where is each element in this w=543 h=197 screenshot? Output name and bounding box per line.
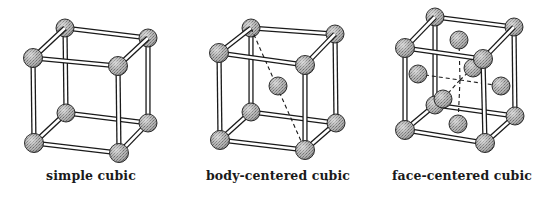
corner-atom-shading [110,144,129,163]
corner-atom-shading [57,104,75,122]
corner-atom-shading [25,134,44,153]
face-center-atom-shading [492,77,510,95]
rod [118,66,119,153]
rod [65,28,66,113]
corner-atom-shading [396,39,415,58]
rod [219,53,305,65]
corner-atom-shading [327,114,345,132]
body-centered-cubic-label: body-centered cubic [206,168,350,183]
rod [435,17,514,27]
corner-atom-shading [24,49,43,68]
rod [65,28,148,38]
rod [34,143,119,153]
corner-atom-shading [139,114,157,132]
corner-atom-shading [242,103,260,121]
rod [219,53,220,140]
corner-atom-shading [476,134,495,153]
rod [335,34,336,123]
simple-cubic-label: simple cubic [46,168,136,183]
rod [220,140,305,150]
rod [405,130,485,143]
rod [514,27,515,116]
corner-atom-shading [211,131,230,150]
face-centered-cubic-label: face-centered cubic [392,168,532,183]
corner-atom-shading [474,50,493,69]
body-centered-cubic-diagram [210,19,346,160]
rod [66,113,148,123]
face-centered-cubic-diagram [396,8,525,153]
corner-atom-shading [109,57,128,76]
rod [33,58,34,143]
corner-atom-shading [396,121,415,140]
rod [33,58,118,66]
body-center-atom-shading [269,77,287,95]
corner-atom-shading [296,141,315,160]
face-center-atom-shading [434,90,452,108]
face-center-atom-shading [449,115,467,133]
simple-cubic-diagram [24,19,158,163]
corner-atom-shading [506,107,524,125]
corner-atom-shading [210,44,229,63]
face-center-atom-shading [450,31,468,49]
crystal-lattice-figure: simple cubic body-centered cubic face-ce… [0,0,543,197]
rod [405,48,483,59]
face-center-atom-shading [409,65,427,83]
rod [251,112,336,123]
corner-atom-shading [296,56,315,75]
